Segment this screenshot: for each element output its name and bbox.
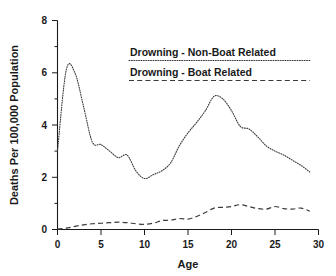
x-axis-tick-labels: 0 5 10 15 20 25 30: [55, 239, 325, 250]
x-tick-label-20: 20: [226, 239, 238, 250]
y-axis-major-ticks: [52, 21, 58, 230]
x-tick-label-30: 30: [313, 239, 325, 250]
legend: Drowning - Non-Boat Related Drowning - B…: [129, 46, 310, 81]
y-tick-label-0: 0: [41, 224, 47, 235]
y-tick-label-8: 8: [41, 15, 47, 26]
y-axis-tick-labels: 0 2 4 6 8: [41, 15, 47, 235]
y-axis-title: Deaths Per 100,000 Population: [8, 45, 20, 205]
x-tick-label-15: 15: [182, 239, 194, 250]
x-tick-label-5: 5: [98, 239, 104, 250]
series-line-boat-related: [58, 205, 310, 229]
x-axis-major-ticks: [58, 230, 319, 236]
x-axis-title: Age: [178, 258, 199, 270]
x-tick-label-0: 0: [55, 239, 61, 250]
drowning-deaths-line-chart: 0 2 4 6 8 0 5 10 15 20 25 30 Age Deaths …: [0, 0, 336, 276]
legend-label-non-boat: Drowning - Non-Boat Related: [130, 46, 276, 58]
y-tick-label-2: 2: [41, 172, 47, 183]
x-tick-label-25: 25: [269, 239, 281, 250]
y-tick-label-6: 6: [41, 67, 47, 78]
x-tick-label-10: 10: [139, 239, 151, 250]
y-tick-label-4: 4: [41, 120, 47, 131]
chart-container: 0 2 4 6 8 0 5 10 15 20 25 30 Age Deaths …: [0, 0, 336, 276]
legend-label-boat: Drowning - Boat Related: [130, 66, 252, 78]
